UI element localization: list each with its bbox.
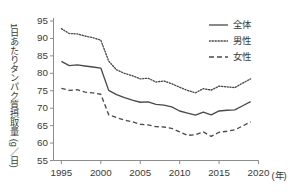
legend-line-dashed-icon <box>209 52 228 62</box>
series-line-0 <box>61 61 250 115</box>
legend-label-2: 女性 <box>233 52 251 62</box>
legend-line-dotted-icon <box>209 36 228 46</box>
legend-label-1: 男性 <box>233 36 251 46</box>
legend-line-solid-icon <box>209 20 228 30</box>
legend-item-1: 男性 <box>209 34 287 47</box>
protein-intake-line-chart: 1日あたりタンパク質摂取量 (g／日) 959085807570656055 1… <box>0 0 290 192</box>
legend-label-0: 全体 <box>233 20 251 30</box>
legend-item-0: 全体 <box>209 18 287 31</box>
series-line-2 <box>61 88 250 136</box>
legend: 全体 男性 女性 <box>209 18 287 66</box>
legend-item-2: 女性 <box>209 50 287 63</box>
